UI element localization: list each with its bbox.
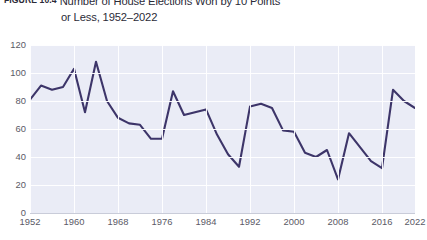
plot-area: [30, 45, 415, 213]
gridline-vertical: [162, 45, 163, 213]
x-axis-tick-label: 1960: [64, 217, 85, 226]
x-axis-baseline: [30, 213, 415, 214]
y-axis-tick-label: 80: [0, 96, 26, 105]
x-axis-tick-label: 1976: [152, 217, 173, 226]
gridline-vertical: [30, 45, 31, 213]
figure-title-block: FIGURE 10.4Number of House Elections Won…: [0, 0, 427, 25]
gridline-horizontal: [30, 73, 415, 74]
gridline-horizontal: [30, 157, 415, 158]
y-axis-tick-label: 20: [0, 180, 26, 189]
gridline-vertical: [250, 45, 251, 213]
x-axis-tick-label: 1984: [196, 217, 217, 226]
gridline-horizontal: [30, 101, 415, 102]
gridline-vertical: [294, 45, 295, 213]
figure-title-line-2: or Less, 1952–2022: [61, 10, 421, 26]
figure-container: FIGURE 10.4Number of House Elections Won…: [0, 0, 427, 240]
gridline-horizontal: [30, 185, 415, 186]
gridline-vertical: [74, 45, 75, 213]
figure-title-line-1: FIGURE 10.4Number of House Elections Won…: [4, 0, 421, 10]
x-axis-tick-label: 1992: [240, 217, 261, 226]
gridline-vertical: [415, 45, 416, 213]
data-series-line: [30, 62, 415, 180]
x-axis-tick-label: 1952: [20, 217, 41, 226]
x-axis-tick-label: 2000: [284, 217, 305, 226]
x-axis-tick-label: 2016: [372, 217, 393, 226]
x-axis-tick-label: 2008: [328, 217, 349, 226]
gridline-vertical: [338, 45, 339, 213]
y-axis-tick-label: 120: [0, 40, 26, 49]
y-axis-tick-label: 100: [0, 68, 26, 77]
x-axis-tick-label: 1968: [108, 217, 129, 226]
y-axis-tick-label: 60: [0, 124, 26, 133]
x-axis-tick-label: 2022: [405, 217, 426, 226]
gridline-horizontal: [30, 129, 415, 130]
y-axis-labels: 020406080100120: [0, 0, 26, 240]
figure-title-text-1: Number of House Elections Won by 10 Poin…: [60, 0, 280, 7]
gridline-horizontal: [30, 45, 415, 46]
gridline-vertical: [206, 45, 207, 213]
y-axis-tick-label: 40: [0, 152, 26, 161]
gridline-vertical: [118, 45, 119, 213]
gridline-vertical: [382, 45, 383, 213]
